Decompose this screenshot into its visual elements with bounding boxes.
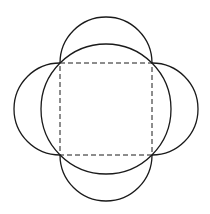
dashed-square xyxy=(60,63,152,155)
semicircle-top xyxy=(60,17,152,63)
semicircle-left xyxy=(14,63,60,155)
geometry-diagram xyxy=(0,0,210,214)
semicircle-bottom xyxy=(60,155,152,201)
semicircle-right xyxy=(152,63,198,155)
